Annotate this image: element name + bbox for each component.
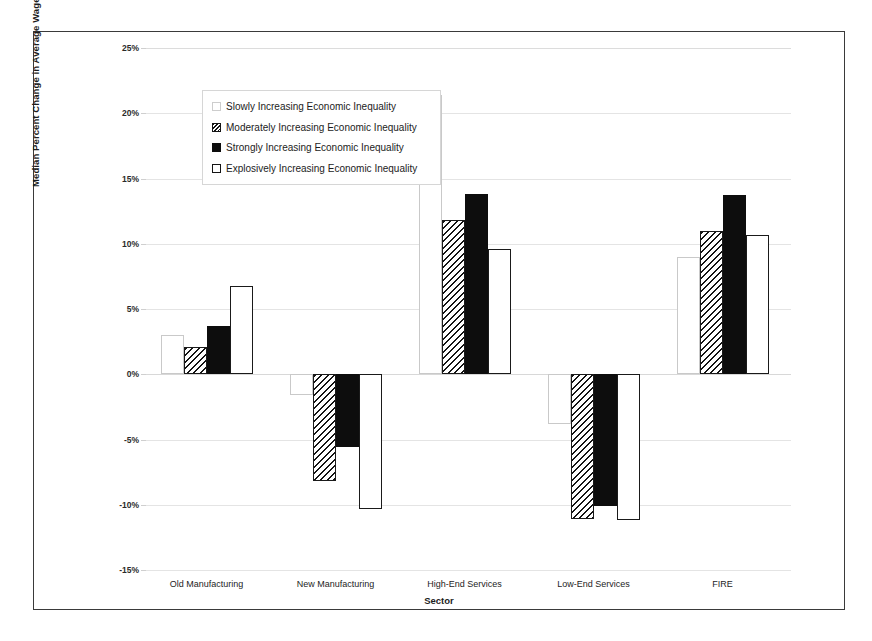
y-axis-tick-label: -10%: [119, 500, 139, 510]
bar-group: [662, 48, 791, 570]
y-axis-tick-label: -15%: [119, 565, 139, 575]
x-axis-category-label: Low-End Services: [557, 579, 630, 589]
legend-item: Moderately Increasing Economic Inequalit…: [212, 121, 430, 135]
bar: [336, 374, 359, 447]
chart-frame: Median Percent Change in Average Wages f…: [33, 31, 845, 610]
bar: [548, 374, 571, 424]
y-axis-tick-label: 10%: [122, 239, 139, 249]
bar: [207, 326, 230, 374]
bar: [677, 257, 700, 374]
bar: [230, 286, 253, 375]
y-axis-tick-label: 25%: [122, 43, 139, 53]
bar: [465, 194, 488, 374]
bar: [746, 235, 769, 375]
bar: [290, 374, 313, 395]
x-axis-title: Sector: [34, 595, 844, 606]
bar: [488, 249, 511, 374]
bar: [571, 374, 594, 519]
y-axis-title: Median Percent Change in Average Wages f…: [30, 0, 41, 187]
open-outlined-square-swatch: [212, 164, 221, 173]
bar: [617, 374, 640, 520]
diagonal-hatch-square-swatch: [212, 123, 221, 132]
bar: [161, 335, 184, 374]
y-axis-tick-label: 15%: [122, 174, 139, 184]
x-axis-category-label: FIRE: [712, 579, 733, 589]
x-axis-category-label: New Manufacturing: [297, 579, 375, 589]
x-axis-category-label: High-End Services: [427, 579, 502, 589]
open-light-square-swatch: [212, 102, 221, 111]
gridline: [146, 570, 791, 571]
bar: [313, 374, 336, 481]
bar: [700, 231, 723, 375]
chart-legend: Slowly Increasing Economic InequalityMod…: [202, 90, 441, 185]
legend-item: Explosively Increasing Economic Inequali…: [212, 162, 430, 176]
y-axis-tick-label: -5%: [124, 435, 139, 445]
legend-item-label: Moderately Increasing Economic Inequalit…: [226, 121, 417, 135]
y-axis-tick-label: 5%: [127, 304, 139, 314]
x-axis-category-label: Old Manufacturing: [170, 579, 244, 589]
bar-group: [533, 48, 662, 570]
bar: [442, 220, 465, 374]
legend-item-label: Slowly Increasing Economic Inequality: [226, 100, 396, 114]
y-axis-tick-label: 20%: [122, 108, 139, 118]
bar: [723, 195, 746, 374]
y-axis-tick-label: 0%: [127, 369, 139, 379]
y-axis-tick-mark: [141, 570, 146, 571]
legend-item-label: Explosively Increasing Economic Inequali…: [226, 162, 417, 176]
bar: [359, 374, 382, 508]
bar: [594, 374, 617, 506]
solid-black-square-swatch: [212, 143, 221, 152]
legend-item: Strongly Increasing Economic Inequality: [212, 141, 430, 155]
bar: [184, 347, 207, 374]
legend-item: Slowly Increasing Economic Inequality: [212, 100, 430, 114]
legend-item-label: Strongly Increasing Economic Inequality: [226, 141, 404, 155]
